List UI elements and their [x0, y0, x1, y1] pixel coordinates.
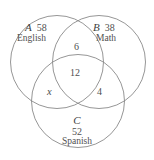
set-label-c: C 52 Spanish — [57, 115, 97, 147]
region-value-b-and-c: 4 — [97, 86, 102, 97]
region-value-a-and-c: x — [47, 86, 52, 97]
region-value-a-and-b: 6 — [74, 41, 79, 52]
set-b-letter: B — [93, 22, 100, 34]
set-a-subject: English — [17, 34, 47, 44]
set-c-subject: Spanish — [57, 137, 97, 147]
set-b-subject: Math — [89, 34, 116, 44]
set-a-letter: A — [25, 22, 32, 34]
set-b-count: 38 — [105, 23, 115, 34]
venn-diagram-figure: A 58 English B 38 Math C 52 Spanish 6 12… — [0, 0, 154, 160]
set-label-a: A 58 English — [17, 22, 47, 44]
set-b-header: B 38 — [89, 22, 116, 34]
set-c-letter: C — [73, 115, 80, 127]
set-a-header: A 58 — [17, 22, 47, 34]
region-value-a-and-b-and-c: 12 — [70, 67, 80, 78]
set-c-header: C — [57, 115, 97, 127]
set-a-count: 58 — [37, 23, 47, 34]
set-label-b: B 38 Math — [89, 22, 116, 44]
